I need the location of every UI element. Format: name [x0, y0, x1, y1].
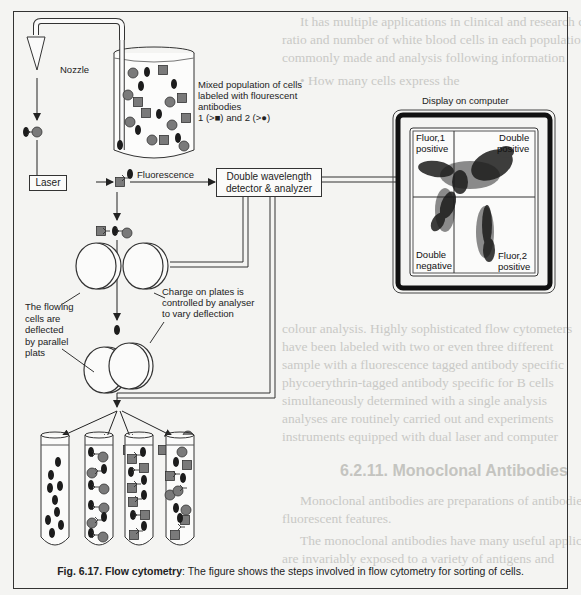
collection-tubes [41, 432, 194, 545]
laser-box: Laser [29, 175, 67, 191]
display-on-computer-label: Display on computer [422, 95, 509, 106]
flowing-cells-label: The flowing cells are deflected by paral… [25, 301, 74, 359]
mixed-population-label: Mixed population of cells labeled with f… [198, 79, 302, 123]
caption-text: : The figure shows the steps involved in… [182, 565, 524, 577]
caption-title: Fig. 6.17. Flow cytometry [57, 565, 182, 577]
detector-analyzer-box: Double wavelength detector & analyzer [216, 168, 322, 197]
quadrant-double-positive: Double positive [497, 133, 529, 154]
quadrant-fluor2-positive: Fluor,2 positive [498, 251, 530, 272]
nozzle-label: Nozzle [60, 64, 89, 75]
fluorescence-label: Fluorescence [137, 169, 194, 180]
beaker [36, 21, 194, 158]
nozzle [27, 37, 45, 70]
quadrant-double-negative: Double negative [416, 250, 452, 271]
charge-on-plates-label: Charge on plates is controlled by analys… [162, 286, 254, 319]
quadrant-fluor1-positive: Fluor,1 positive [416, 133, 448, 154]
figure-caption: Fig. 6.17. Flow cytometry: The figure sh… [13, 565, 568, 577]
